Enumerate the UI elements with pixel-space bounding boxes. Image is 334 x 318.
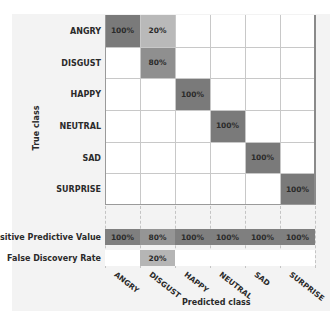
matrix-cell <box>280 110 315 142</box>
matrix-cell <box>210 173 245 205</box>
row-label-neutral: NEUTRAL <box>59 121 101 130</box>
matrix-cell <box>175 110 210 142</box>
matrix-cell <box>105 173 140 205</box>
matrix-border-left <box>105 15 106 205</box>
matrix-cell <box>210 78 245 110</box>
ppv-cell: 100% <box>245 229 280 245</box>
matrix-cell <box>280 47 315 79</box>
matrix-border-right <box>314 15 316 205</box>
matrix-cell <box>105 47 140 79</box>
ppv-cell: 100% <box>105 229 140 245</box>
matrix-border-bottom <box>105 204 316 205</box>
matrix-cell: 100% <box>105 15 140 47</box>
ppv-cell: 80% <box>140 229 175 245</box>
matrix-cell <box>245 78 280 110</box>
grid-line <box>105 173 315 174</box>
matrix-cell <box>105 78 140 110</box>
row-label-happy: HAPPY <box>71 90 101 99</box>
matrix-cell <box>105 142 140 174</box>
matrix-cell <box>280 15 315 47</box>
grid-line <box>105 78 315 79</box>
grid-line <box>105 47 315 48</box>
matrix-cell <box>245 110 280 142</box>
fdr-cell: 20% <box>140 250 175 266</box>
row-label-disgust: DISGUST <box>61 58 101 67</box>
matrix-cell <box>175 142 210 174</box>
matrix-cell <box>280 142 315 174</box>
matrix-cell <box>140 78 175 110</box>
fdr-label: False Discovery Rate <box>7 254 101 263</box>
matrix-cell <box>245 47 280 79</box>
grid-line <box>105 142 315 143</box>
matrix-cell: 100% <box>280 173 315 205</box>
matrix-cell <box>140 110 175 142</box>
x-axis-title: Predicted class <box>182 298 251 307</box>
matrix-cell: 100% <box>210 110 245 142</box>
fdr-cell <box>245 250 280 266</box>
column-guide <box>315 206 316 268</box>
row-label-sad: SAD <box>82 153 101 162</box>
grid-line <box>105 110 315 111</box>
matrix-cell <box>175 47 210 79</box>
matrix-cell: 100% <box>245 142 280 174</box>
matrix-cell <box>245 15 280 47</box>
matrix-cell <box>210 15 245 47</box>
matrix-cell <box>105 110 140 142</box>
matrix-cell: 80% <box>140 47 175 79</box>
matrix-cell: 20% <box>140 15 175 47</box>
matrix-cell <box>245 173 280 205</box>
ppv-label: Positive Predictive Value <box>0 233 101 242</box>
matrix-cell <box>210 142 245 174</box>
matrix-cell <box>175 15 210 47</box>
fdr-cell <box>210 250 245 266</box>
matrix-cell <box>175 173 210 205</box>
matrix-cell <box>280 78 315 110</box>
fdr-cell <box>175 250 210 266</box>
ppv-cell: 100% <box>210 229 245 245</box>
fdr-cell <box>280 250 315 266</box>
row-label-angry: ANGRY <box>70 26 101 35</box>
matrix-cell <box>140 142 175 174</box>
row-label-surprise: SURPRISE <box>56 185 101 194</box>
y-axis-title: True class <box>32 106 41 151</box>
matrix-cell: 100% <box>175 78 210 110</box>
matrix-cell <box>210 47 245 79</box>
fdr-cell <box>105 250 140 266</box>
ppv-cell: 100% <box>280 229 315 245</box>
matrix-cell <box>140 173 175 205</box>
ppv-cell: 100% <box>175 229 210 245</box>
